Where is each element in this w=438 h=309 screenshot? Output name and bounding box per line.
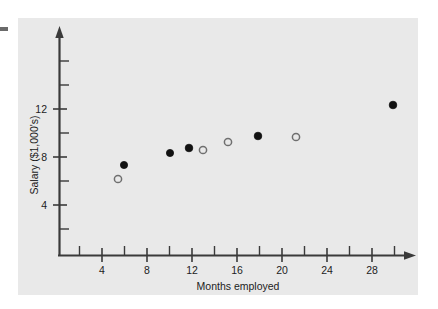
data-point-filled bbox=[254, 132, 262, 140]
x-tick-label-4: 4 bbox=[99, 264, 105, 276]
y-axis-minor-ticks bbox=[60, 61, 70, 229]
series-filled-markers bbox=[120, 101, 396, 168]
data-point-filled bbox=[185, 144, 193, 152]
y-axis-arrowhead bbox=[55, 26, 63, 38]
x-tick-label-16: 16 bbox=[231, 264, 243, 276]
series-open-markers bbox=[114, 133, 299, 182]
scatter-plot-svg: 12 8 4 4 8 12 16 20 24 28 Months employe… bbox=[0, 0, 438, 309]
x-tick-label-24: 24 bbox=[321, 264, 333, 276]
data-point-filled bbox=[120, 161, 127, 168]
x-tick-label-8: 8 bbox=[144, 264, 150, 276]
y-axis-title: Salary ($1,000's) bbox=[28, 115, 40, 194]
data-point-filled bbox=[166, 149, 173, 156]
data-point-filled bbox=[389, 101, 397, 109]
x-tick-label-28: 28 bbox=[366, 264, 378, 276]
data-point-open bbox=[224, 138, 231, 145]
y-tick-label-12: 12 bbox=[35, 103, 47, 115]
data-point-open bbox=[114, 175, 121, 182]
x-axis-title: Months employed bbox=[197, 280, 280, 292]
data-point-open bbox=[199, 146, 206, 153]
x-tick-label-12: 12 bbox=[186, 264, 198, 276]
x-tick-label-20: 20 bbox=[276, 264, 288, 276]
figure-container: 12 8 4 4 8 12 16 20 24 28 Months employe… bbox=[0, 0, 438, 309]
data-point-open bbox=[292, 133, 299, 140]
y-tick-label-8: 8 bbox=[41, 151, 47, 163]
scatter-plot: 12 8 4 4 8 12 16 20 24 28 Months employe… bbox=[0, 0, 438, 309]
y-tick-label-4: 4 bbox=[41, 199, 47, 211]
x-axis-arrowhead bbox=[404, 251, 416, 259]
